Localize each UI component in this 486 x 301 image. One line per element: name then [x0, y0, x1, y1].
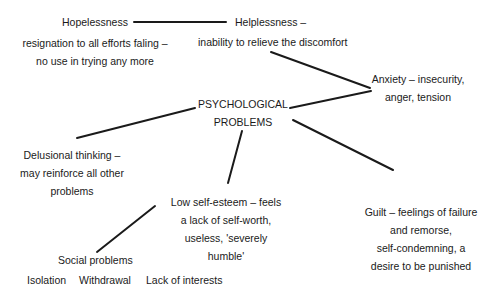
- node-helplessness-description: inability to relieve the discomfort: [198, 33, 347, 51]
- line-helplessness-anxiety: [271, 52, 370, 88]
- line-center-anxiety: [290, 91, 371, 108]
- line-center-guilt: [293, 120, 393, 170]
- social-item-withdrawal: Withdrawal: [79, 271, 131, 289]
- social-item-lack-of-interests: Lack of interests: [146, 271, 222, 289]
- node-low-self-esteem: Low self-esteem – feels a lack of self-w…: [171, 193, 281, 265]
- node-delusional-thinking: Delusional thinking – may reinforce all …: [20, 146, 124, 200]
- line-low-self-esteem-social: [97, 206, 155, 252]
- node-hopelessness-description: resignation to all efforts faling – no u…: [22, 34, 167, 70]
- node-social-problems-title: Social problems: [58, 251, 133, 269]
- node-center-psychological-problems: PSYCHOLOGICAL PROBLEMS: [198, 95, 288, 131]
- node-guilt: Guilt – feelings of failure and remorse,…: [365, 203, 478, 275]
- line-center-delusional: [77, 108, 195, 138]
- node-anxiety: Anxiety – insecurity, anger, tension: [372, 70, 465, 106]
- social-item-isolation: Isolation: [27, 271, 66, 289]
- line-center-low-self-esteem: [228, 131, 242, 183]
- node-helplessness-title: Helplessness –: [235, 13, 306, 31]
- node-hopelessness-title: Hopelessness: [62, 13, 128, 31]
